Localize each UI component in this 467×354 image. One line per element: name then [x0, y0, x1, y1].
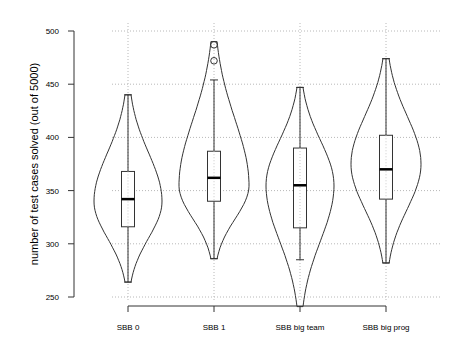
x-tick-label: SBB big prog	[362, 323, 409, 332]
x-tick-label: SBB 1	[203, 323, 226, 332]
y-tick-label: 350	[46, 187, 60, 196]
y-tick-label: 250	[46, 293, 60, 302]
violin-chart: 250300350400450500 SBB 0SBB 1SBB big tea…	[0, 0, 467, 354]
violin-sbb-big-prog	[351, 59, 421, 263]
x-tick-label: SBB big team	[276, 323, 325, 332]
violins	[94, 42, 421, 307]
y-axis-label: number of test cases solved (out of 5000…	[28, 63, 40, 265]
y-tick-label: 400	[46, 133, 60, 142]
x-axis: SBB 0SBB 1SBB big teamSBB big prog	[117, 306, 410, 332]
outlier-point	[211, 57, 218, 64]
y-axis: 250300350400450500	[46, 27, 74, 302]
y-tick-label: 500	[46, 27, 60, 36]
x-tick-label: SBB 0	[117, 323, 140, 332]
y-tick-label: 300	[46, 240, 60, 249]
violin-sbb-0	[94, 95, 162, 282]
violin-sbb-big-team	[266, 87, 334, 306]
y-tick-label: 450	[46, 80, 60, 89]
